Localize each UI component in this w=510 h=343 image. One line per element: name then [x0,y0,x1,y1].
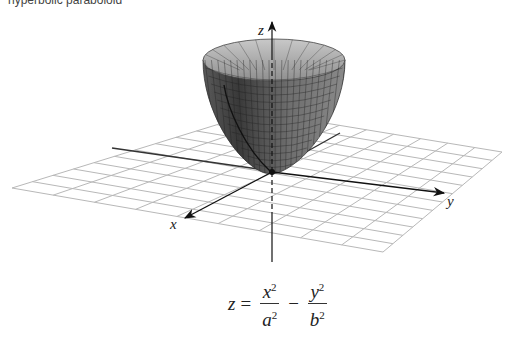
origin-point [269,169,275,175]
fraction-y-over-b: y2 b2 [308,276,327,332]
z-axis-label: z [258,22,264,39]
fraction-x-over-a: x2 a2 [260,276,279,332]
x-axis-label: x [170,216,177,233]
numerator-y-exp: 2 [319,281,325,293]
denominator-a: a [262,310,272,331]
equation-lhs: z [228,293,235,315]
numerator-y: y [310,281,318,302]
denominator-b: b [310,310,320,331]
equals-sign: = [240,293,251,315]
y-axis-label: y [447,193,454,210]
numerator-x: x [263,281,271,302]
minus-sign: − [288,293,299,315]
numerator-x-exp: 2 [271,281,277,293]
denominator-a-exp: 2 [272,309,278,321]
paraboloid-surface [203,39,346,175]
equation: z = x2 a2 − y2 b2 [228,276,331,332]
denominator-b-exp: 2 [319,309,325,321]
